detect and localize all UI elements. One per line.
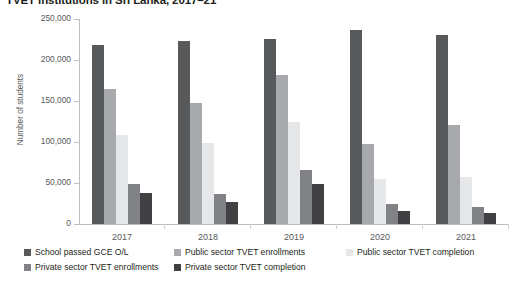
legend-swatch-icon: [174, 264, 181, 271]
x-tick-mark: [336, 224, 337, 229]
legend-item[interactable]: Public sector TVET completion: [346, 247, 474, 257]
legend-label: Private sector TVET completion: [185, 262, 306, 272]
y-tick-label: 50,000: [7, 177, 71, 187]
bar[interactable]: [104, 89, 116, 224]
x-axis-label-2017: 2017: [79, 232, 165, 242]
legend-item[interactable]: School passed GCE O/L: [24, 247, 174, 257]
bar[interactable]: [374, 179, 386, 224]
bar[interactable]: [226, 202, 238, 224]
y-tick-label: 200,000: [7, 54, 71, 64]
bar[interactable]: [362, 144, 374, 224]
bar[interactable]: [350, 30, 362, 224]
y-tick-label: 150,000: [7, 95, 71, 105]
legend-swatch-icon: [24, 264, 31, 271]
legend-swatch-icon: [174, 249, 181, 256]
bar-group-2020: 2020: [337, 19, 423, 224]
bar-group-2019: 2019: [251, 19, 337, 224]
legend-label: School passed GCE O/L: [35, 247, 129, 257]
legend-label: Public sector TVET enrollments: [185, 247, 305, 257]
x-tick-mark: [164, 224, 165, 229]
bar[interactable]: [202, 143, 214, 224]
bar[interactable]: [472, 207, 484, 224]
chart-root: TVET institutions in Sri Lanka, 2017–21 …: [0, 0, 517, 291]
legend-row-2: Private sector TVET enrollmentsPrivate s…: [24, 262, 517, 277]
bars: [337, 19, 423, 224]
x-axis-label-2021: 2021: [423, 232, 509, 242]
legend-item[interactable]: Private sector TVET completion: [174, 262, 306, 272]
bar[interactable]: [386, 204, 398, 225]
bar[interactable]: [140, 193, 152, 224]
x-axis-label-2019: 2019: [251, 232, 337, 242]
plot-area: 050,000100,000150,000200,000250,000 2017…: [79, 19, 509, 224]
bar[interactable]: [190, 103, 202, 224]
bar[interactable]: [484, 213, 496, 224]
x-axis-label-2018: 2018: [165, 232, 251, 242]
bar[interactable]: [436, 35, 448, 224]
y-tick-mark: [74, 224, 79, 225]
bars: [79, 19, 165, 224]
bar[interactable]: [116, 135, 128, 224]
bar[interactable]: [128, 184, 140, 224]
y-tick-label: 250,000: [7, 13, 71, 23]
bar[interactable]: [276, 75, 288, 224]
bar[interactable]: [214, 194, 226, 224]
legend-swatch-icon: [24, 249, 31, 256]
bar[interactable]: [398, 211, 410, 224]
bar-group-2018: 2018: [165, 19, 251, 224]
bar[interactable]: [178, 41, 190, 224]
bar-group-2021: 2021: [423, 19, 509, 224]
legend-label: Private sector TVET enrollments: [35, 262, 158, 272]
y-axis-title: Number of students: [16, 50, 25, 170]
bars: [251, 19, 337, 224]
y-tick-label: 100,000: [7, 136, 71, 146]
x-axis-line: [79, 224, 509, 225]
legend-item[interactable]: Private sector TVET enrollments: [24, 262, 174, 272]
bars: [423, 19, 509, 224]
legend-row-1: School passed GCE O/LPublic sector TVET …: [24, 247, 517, 262]
x-axis-label-2020: 2020: [337, 232, 423, 242]
chart-legend: School passed GCE O/LPublic sector TVET …: [24, 247, 517, 277]
bar[interactable]: [448, 125, 460, 224]
bar[interactable]: [312, 184, 324, 224]
bar[interactable]: [300, 170, 312, 224]
bar[interactable]: [460, 177, 472, 224]
x-tick-mark: [422, 224, 423, 229]
bar-groups: 20172018201920202021: [79, 19, 509, 224]
x-tick-mark: [250, 224, 251, 229]
bars: [165, 19, 251, 224]
bar[interactable]: [92, 45, 104, 224]
chart-title: TVET institutions in Sri Lanka, 2017–21: [6, 0, 216, 6]
bar[interactable]: [264, 39, 276, 224]
x-tick-mark: [508, 224, 509, 229]
legend-label: Public sector TVET completion: [357, 247, 474, 257]
legend-item[interactable]: Public sector TVET enrollments: [174, 247, 346, 257]
legend-swatch-icon: [346, 249, 353, 256]
bar[interactable]: [288, 122, 300, 224]
bar-group-2017: 2017: [79, 19, 165, 224]
y-tick-label: 0: [7, 218, 71, 228]
